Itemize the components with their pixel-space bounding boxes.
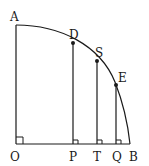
label-S: S (95, 46, 103, 60)
label-A: A (9, 10, 19, 24)
label-Q: Q (112, 150, 122, 164)
label-O: O (10, 150, 20, 164)
right-angle-mark-O (16, 137, 23, 144)
label-E: E (118, 71, 127, 85)
label-T: T (93, 150, 101, 164)
label-B: B (129, 150, 138, 164)
quarter-circle-diagram: A D S E O P T Q B (0, 0, 149, 166)
label-D: D (69, 28, 79, 42)
label-P: P (69, 150, 77, 164)
